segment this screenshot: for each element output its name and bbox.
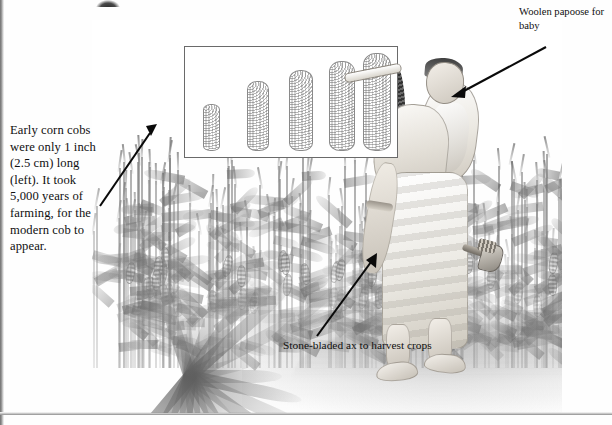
arrow-to-earliest-cob: [100, 124, 157, 206]
illustration-page: Early corn cobs were only 1 inch (2.5 cm…: [0, 0, 612, 425]
arrow-to-papoose: [451, 47, 546, 98]
annotation-arrows: [0, 0, 612, 425]
arrow-to-ax: [317, 253, 377, 336]
